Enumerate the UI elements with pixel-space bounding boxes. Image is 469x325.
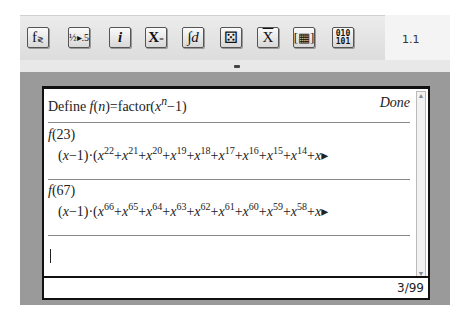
matrix-button[interactable]: [▦]: [293, 27, 315, 48]
binary-icon: 010101: [336, 30, 350, 46]
base-conversion-button[interactable]: 010101: [332, 27, 354, 48]
integral-icon: ∫d: [187, 29, 199, 46]
matrix-icon: [▦]: [294, 30, 315, 46]
splitter-handle-icon[interactable]: [234, 65, 240, 68]
mean-x-bar-icon: X: [263, 29, 274, 46]
probability-button[interactable]: ⚄: [220, 27, 242, 48]
calculator-page: Define f(n)=factor(xn−1) Done f(23) (x−1…: [42, 86, 430, 300]
divider: [48, 179, 410, 180]
history-output-1[interactable]: Done: [380, 95, 410, 111]
history-scrollbar[interactable]: ▲ ▼: [416, 91, 426, 279]
function-compare-icon: f≷: [32, 29, 44, 46]
scroll-up-arrow-icon[interactable]: ▲: [417, 92, 425, 100]
toolbar: f≷ ½▸.5 i X= ∫d ⚄ X [▦] 010101: [20, 15, 385, 61]
splitter[interactable]: [20, 60, 450, 72]
history-output-3[interactable]: (x−1)·(x66+x65+x64+x63+x62+x61+x60+x59+x…: [58, 201, 410, 220]
history-input-3[interactable]: f(67): [48, 183, 75, 199]
history-output-2[interactable]: (x−1)·(x22+x21+x20+x19+x18+x17+x16+x15+x…: [58, 145, 410, 164]
divider: [48, 122, 410, 123]
function-catalog-button[interactable]: f≷: [27, 27, 49, 48]
info-button[interactable]: i: [109, 27, 131, 48]
variables-button[interactable]: X=: [145, 27, 167, 48]
info-icon: i: [118, 29, 122, 46]
calculus-button[interactable]: ∫d: [182, 27, 204, 48]
entry-line-cursor[interactable]: [50, 249, 51, 263]
divider: [48, 235, 410, 236]
history-input-1[interactable]: Define f(n)=factor(xn−1): [48, 95, 187, 115]
history-input-2[interactable]: f(23): [48, 127, 75, 143]
history-area: Define f(n)=factor(xn−1) Done f(23) (x−1…: [44, 89, 414, 279]
dice-icon: ⚄: [224, 28, 238, 47]
fraction-decimal-button[interactable]: ½▸.5: [68, 27, 90, 48]
variable-assign-icon: X=: [148, 29, 163, 46]
fraction-to-decimal-icon: ½▸.5: [69, 32, 89, 43]
entry-count: 3/99: [397, 281, 424, 295]
statistics-button[interactable]: X: [257, 27, 279, 48]
page-number: 1.1: [402, 33, 420, 46]
status-bar: 3/99: [44, 276, 428, 298]
calculator-frame: Define f(n)=factor(xn−1) Done f(23) (x−1…: [20, 72, 450, 305]
